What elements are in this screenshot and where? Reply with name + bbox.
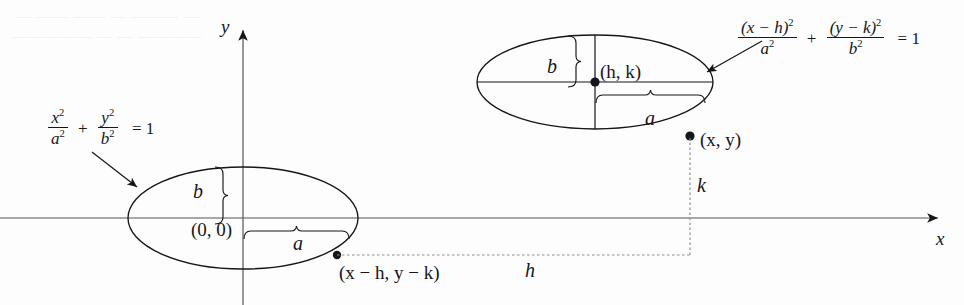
standard-ellipse-equation: x2 a2 + y2 b2 = 1	[48, 108, 154, 146]
coordinate-axes	[0, 30, 938, 305]
translated-semi-major-brace	[596, 90, 705, 103]
translated-eq-num2-exp: 2	[876, 17, 881, 28]
translated-eq-num2: (y − k)	[830, 18, 876, 37]
translated-semi-minor-label-b: b	[547, 55, 557, 78]
origin-ellipse-group	[92, 152, 358, 269]
origin-ellipse-point-label: (x − h, y − k)	[339, 262, 440, 284]
translated-eq-num1: (x − h)	[741, 18, 788, 37]
translated-ellipse-group	[477, 35, 762, 141]
standard-eq-fraction-x: x2 a2	[48, 108, 68, 146]
translated-eq-equals: = 1	[889, 29, 920, 48]
translated-eq-num1-exp: 2	[788, 17, 793, 28]
origin-semi-major-label-a: a	[293, 232, 303, 255]
x-axis-label: x	[936, 228, 944, 250]
translated-semi-major-label-a: a	[645, 107, 655, 130]
standard-eq-num1: x	[51, 108, 59, 127]
translated-ellipse-equation: (x − h)2 a2 + (y − k)2 b2 = 1	[738, 18, 920, 56]
figure-canvas: — —— —— — ——— — ————— — — ————	[0, 0, 964, 305]
translated-eq-den1-exp: 2	[769, 38, 774, 49]
translated-eq-den2: b	[849, 38, 858, 57]
translated-semi-minor-brace	[568, 36, 581, 87]
standard-eq-den1-exp: 2	[60, 128, 65, 139]
translated-center-label: (h, k)	[600, 61, 641, 83]
standard-eq-fraction-y: y2 b2	[98, 108, 118, 146]
standard-eq-equals: = 1	[122, 119, 154, 138]
translated-ellipse-center-dot	[590, 77, 599, 86]
y-axis-label: y	[221, 16, 229, 38]
translated-eq-plus: +	[801, 29, 823, 48]
standard-eq-num1-exp: 2	[59, 107, 64, 118]
origin-semi-minor-label-b: b	[193, 180, 203, 203]
translated-eq-den1: a	[760, 38, 769, 57]
offset-construction-lines	[337, 138, 690, 255]
translated-eq-fraction-y: (y − k)2 b2	[827, 18, 885, 56]
standard-eq-num2: y	[101, 108, 109, 127]
standard-eq-den1: a	[51, 128, 60, 147]
translated-eq-den2-exp: 2	[857, 38, 862, 49]
standard-equation-pointer-arrow	[92, 152, 137, 187]
origin-semi-minor-brace	[215, 167, 228, 224]
vertical-offset-label-k: k	[697, 174, 706, 197]
horizontal-offset-label-h: h	[525, 259, 535, 282]
standard-eq-den2-exp: 2	[109, 128, 114, 139]
standard-eq-num2-exp: 2	[109, 107, 114, 118]
translated-ellipse-point-label: (x, y)	[700, 129, 741, 151]
standard-eq-plus: +	[72, 119, 94, 138]
translated-eq-fraction-x: (x − h)2 a2	[738, 18, 797, 56]
origin-center-label: (0, 0)	[191, 219, 232, 241]
